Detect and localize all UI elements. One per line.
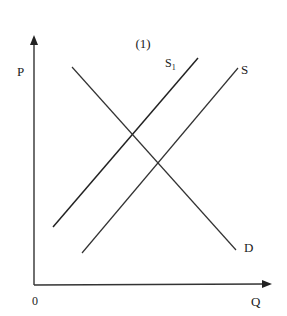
y-axis-label: P bbox=[17, 64, 24, 79]
supply-curve-s-label: S bbox=[241, 62, 248, 77]
x-axis bbox=[34, 284, 264, 285]
supply-curve-s1-label: S1 bbox=[165, 56, 176, 72]
diagram-title: (1) bbox=[135, 36, 150, 51]
supply-demand-diagram: (1) P Q 0 S1 S D bbox=[0, 0, 287, 316]
y-axis-arrow-icon bbox=[30, 35, 38, 45]
x-axis-arrow-icon bbox=[262, 280, 272, 288]
origin-label: 0 bbox=[32, 294, 38, 308]
x-axis-label: Q bbox=[251, 294, 261, 309]
demand-curve-d bbox=[72, 67, 236, 250]
demand-curve-d-label: D bbox=[244, 240, 253, 255]
